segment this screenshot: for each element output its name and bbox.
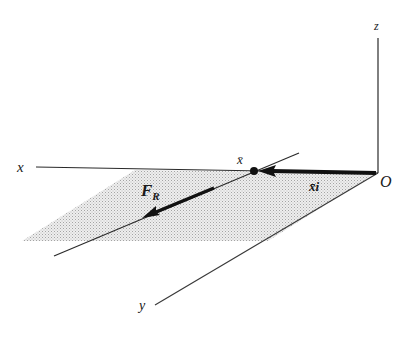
y-axis-label: y: [137, 298, 146, 313]
x-bar-label: x̄: [236, 152, 243, 167]
point-x-bar: [250, 167, 258, 175]
origin-label: O: [380, 173, 392, 190]
force-diagram: z x y O x̄ x̄i FR: [0, 0, 409, 348]
z-axis-label: z: [373, 19, 379, 33]
position-vector-label: x̄i: [308, 179, 320, 194]
x-axis-label: x: [16, 159, 24, 175]
force-label-sub: R: [151, 190, 159, 202]
force-label-main: F: [140, 181, 153, 200]
